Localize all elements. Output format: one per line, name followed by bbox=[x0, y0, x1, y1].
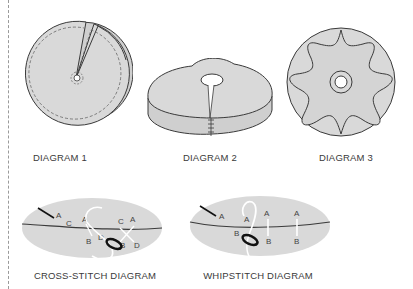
diagram-1-figure bbox=[18, 10, 133, 135]
cross-stitch-caption: CROSS-STITCH DIAGRAM bbox=[30, 270, 160, 281]
diagram-3-caption: DIAGRAM 3 bbox=[316, 152, 376, 163]
svg-text:C: C bbox=[66, 219, 72, 228]
whipstitch-caption: WHIPSTITCH DIAGRAM bbox=[198, 270, 318, 281]
svg-text:A: A bbox=[219, 212, 225, 221]
svg-text:B: B bbox=[294, 237, 299, 246]
svg-text:A: A bbox=[56, 211, 62, 220]
diagram-3-figure bbox=[285, 26, 397, 138]
svg-text:B: B bbox=[86, 237, 91, 246]
cross-stitch-figure: A C A C A B D B D bbox=[20, 196, 165, 262]
diagram-2-caption: DIAGRAM 2 bbox=[180, 152, 240, 163]
dashed-margin-rule bbox=[8, 0, 9, 289]
svg-text:A: A bbox=[294, 209, 300, 218]
svg-text:D: D bbox=[134, 241, 140, 250]
svg-text:B: B bbox=[234, 229, 239, 238]
svg-text:A: A bbox=[244, 215, 250, 224]
diagram-1-caption: DIAGRAM 1 bbox=[30, 152, 90, 163]
svg-text:B: B bbox=[266, 237, 271, 246]
svg-text:A: A bbox=[130, 215, 136, 224]
whipstitch-figure: A A A A B B B bbox=[188, 192, 333, 258]
diagram-2-figure bbox=[142, 58, 278, 138]
svg-text:A: A bbox=[264, 209, 270, 218]
svg-text:C: C bbox=[118, 217, 124, 226]
